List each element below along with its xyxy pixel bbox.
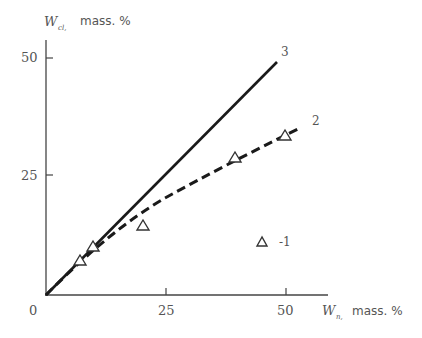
data-point xyxy=(137,220,149,230)
y-axis-sub: cl, xyxy=(58,24,66,32)
y-axis-unit: mass. % xyxy=(80,14,131,28)
x-axis-unit: mass. % xyxy=(352,304,403,318)
x-tick-label-0: 0 xyxy=(29,303,37,318)
x-axis-var: W xyxy=(322,303,337,318)
legend-label-1: -1 xyxy=(279,235,291,249)
legend-marker-1 xyxy=(257,237,267,246)
series-2-label: 2 xyxy=(312,114,320,128)
data-point xyxy=(279,130,291,140)
chart: 50 25 0 25 50 W cl, mass. % W n, mass. %… xyxy=(0,0,422,338)
series-3-label: 3 xyxy=(281,45,289,59)
y-axis-var: W xyxy=(44,14,59,29)
y-tick-label-25: 25 xyxy=(21,168,38,183)
x-axis-sub: n, xyxy=(336,313,343,321)
y-tick-label-50: 50 xyxy=(21,50,38,65)
series-2-line xyxy=(46,128,300,295)
x-tick-label-50: 50 xyxy=(277,303,294,318)
x-tick-label-25: 25 xyxy=(158,303,175,318)
